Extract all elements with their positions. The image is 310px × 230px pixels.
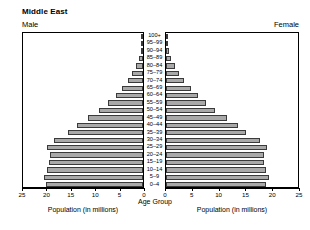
axis-tick-label: 5 — [190, 191, 193, 198]
bar-male-60–64 — [116, 93, 143, 98]
bar-female-90–94 — [166, 48, 169, 53]
age-group-label: 40–44 — [144, 121, 165, 128]
bar-row — [166, 92, 298, 99]
bar-male-20–24 — [50, 152, 143, 157]
bar-male-75–79 — [132, 71, 143, 76]
bar-row — [23, 70, 143, 77]
bar-female-5–9 — [166, 175, 269, 180]
bar-row — [23, 144, 143, 151]
axis-tick-label: 0 — [163, 191, 166, 198]
bar-female-0–4 — [166, 182, 266, 187]
bar-row — [23, 40, 143, 47]
bar-row — [166, 174, 298, 181]
bar-male-80–84 — [136, 63, 143, 68]
bar-female-30–34 — [166, 138, 260, 143]
age-group-label: 90–94 — [144, 47, 165, 54]
bar-female-70–74 — [166, 78, 184, 83]
bar-female-20–24 — [166, 152, 264, 157]
bar-row — [166, 78, 298, 85]
bar-male-70–74 — [128, 78, 143, 83]
axis-tick-label: 15 — [67, 191, 74, 198]
chart-title: Middle East — [22, 7, 68, 16]
bar-row — [166, 122, 298, 129]
age-group-label: 80–84 — [144, 62, 165, 69]
age-group-label: 35–39 — [144, 129, 165, 136]
bar-row — [23, 85, 143, 92]
bar-row — [23, 115, 143, 122]
male-bars — [23, 33, 143, 187]
age-group-label: 50–54 — [144, 106, 165, 113]
bar-male-55–59 — [108, 100, 143, 105]
age-group-label: 25–29 — [144, 143, 165, 150]
bar-female-25–29 — [166, 145, 267, 150]
age-group-label: 65–69 — [144, 84, 165, 91]
bar-row — [166, 115, 298, 122]
male-plot-area — [22, 32, 144, 188]
bar-male-65–69 — [122, 86, 143, 91]
bar-row — [166, 33, 298, 40]
age-group-label: 30–34 — [144, 136, 165, 143]
bar-male-30–34 — [54, 138, 143, 143]
bar-male-50–54 — [99, 108, 143, 113]
age-group-label: 60–64 — [144, 91, 165, 98]
bar-male-35–39 — [68, 130, 143, 135]
age-group-label: 5–9 — [144, 173, 165, 180]
bar-row — [23, 55, 143, 62]
bar-row — [23, 174, 143, 181]
age-group-label: 100+ — [144, 32, 165, 39]
bar-male-90–94 — [141, 48, 143, 53]
bar-row — [166, 40, 298, 47]
bar-row — [166, 55, 298, 62]
bar-female-95–99 — [166, 41, 168, 46]
bar-female-15–19 — [166, 160, 264, 165]
bar-female-40–44 — [166, 123, 238, 128]
age-group-label: 20–24 — [144, 151, 165, 158]
axis-tick-label: 10 — [215, 191, 222, 198]
bar-female-45–49 — [166, 115, 227, 120]
axis-tick-label: 20 — [269, 191, 276, 198]
female-plot-area — [165, 32, 299, 188]
age-group-label: 45–49 — [144, 114, 165, 121]
bar-row — [23, 100, 143, 107]
axis-tick-label: 25 — [19, 191, 26, 198]
bar-row — [166, 48, 298, 55]
bar-row — [166, 152, 298, 159]
male-x-axis: 2520151050 — [22, 188, 144, 198]
bar-row — [166, 85, 298, 92]
bar-male-0–4 — [46, 182, 143, 187]
bar-row — [23, 48, 143, 55]
bar-row — [166, 144, 298, 151]
bar-row — [166, 130, 298, 137]
age-group-label: 10–14 — [144, 166, 165, 173]
bar-male-95–99 — [141, 41, 143, 46]
bar-row — [23, 130, 143, 137]
bar-male-15–19 — [49, 160, 143, 165]
bar-row — [166, 107, 298, 114]
population-pyramid-chart: Middle East Male Female 100+95–9990–9485… — [0, 0, 310, 230]
age-group-label: 0–4 — [144, 181, 165, 188]
bar-row — [166, 159, 298, 166]
male-axis-title: Population (in millions) — [22, 206, 144, 213]
bar-row — [23, 137, 143, 144]
bar-female-35–39 — [166, 130, 246, 135]
female-axis-title: Population (in millions) — [165, 206, 299, 213]
axis-tick-label: 25 — [296, 191, 303, 198]
bar-male-10–14 — [47, 167, 143, 172]
axis-tick-label: 10 — [92, 191, 99, 198]
axis-tick-label: 0 — [142, 191, 145, 198]
bar-row — [23, 33, 143, 40]
bar-row — [23, 78, 143, 85]
bar-female-60–64 — [166, 93, 198, 98]
axis-tick-label: 15 — [242, 191, 249, 198]
bar-female-85–89 — [166, 56, 171, 61]
axis-tick-label: 5 — [118, 191, 121, 198]
female-legend-label: Female — [274, 20, 299, 29]
bar-row — [23, 167, 143, 174]
bar-row — [23, 92, 143, 99]
bar-male-85–89 — [139, 56, 143, 61]
bar-male-5–9 — [44, 175, 143, 180]
bar-row — [166, 63, 298, 70]
bar-female-50–54 — [166, 108, 215, 113]
male-legend-label: Male — [22, 20, 38, 29]
bar-female-65–69 — [166, 86, 191, 91]
